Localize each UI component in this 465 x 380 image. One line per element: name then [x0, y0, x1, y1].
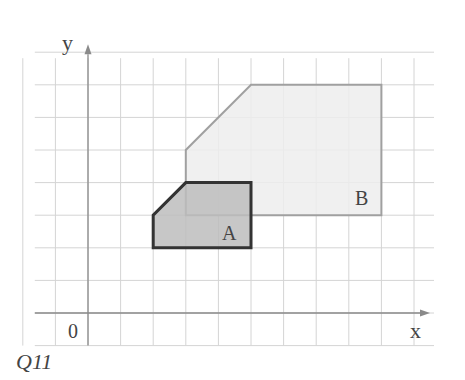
shape-b-label: B — [355, 187, 368, 210]
y-axis-arrow-icon — [85, 44, 92, 54]
question-caption: Q11 — [16, 349, 52, 375]
x-axis-label: x — [410, 318, 421, 344]
shape-a-label: A — [222, 222, 236, 245]
origin-label: 0 — [68, 320, 78, 343]
x-axis-arrow-icon — [420, 310, 430, 317]
y-axis-label: y — [62, 30, 73, 56]
